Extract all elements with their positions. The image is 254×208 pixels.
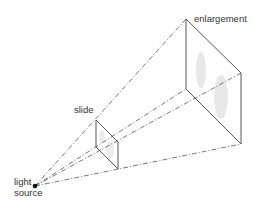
projection-rays xyxy=(35,19,241,186)
slide-image xyxy=(99,130,114,159)
projection-diagram xyxy=(0,0,254,208)
label-light: light xyxy=(14,177,31,187)
label-slide: slide xyxy=(74,105,94,115)
enlargement-frame xyxy=(186,19,241,144)
label-enlargement: enlargement xyxy=(194,14,247,24)
label-source: source xyxy=(14,188,43,198)
enlargement-image xyxy=(196,52,228,119)
